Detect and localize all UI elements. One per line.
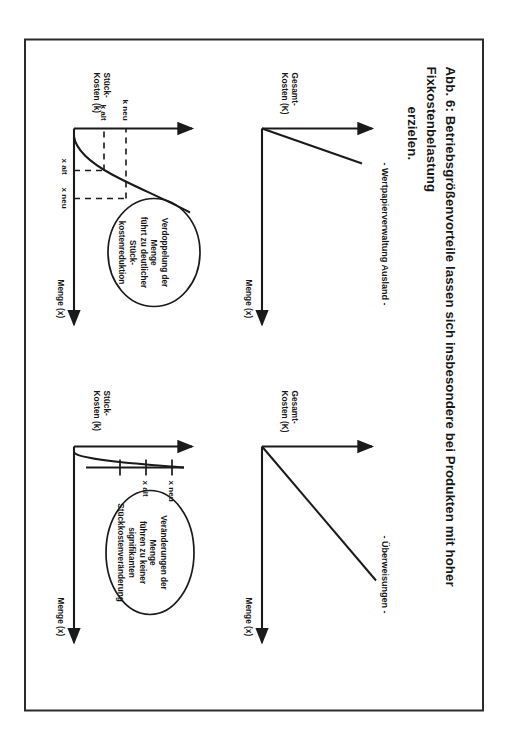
chart-bottom-right-tick-x-alt: x alt xyxy=(140,480,150,496)
chart-top-left-x-axis-label: Menge (x) xyxy=(244,279,254,318)
figure-title-line1: Betriebsgrößenvorteile lassen sich insbe… xyxy=(424,66,458,586)
chart-bottom-right: Stück- Kosten (k) Menge (x) x alt x neu … xyxy=(44,384,216,684)
unit-cost-curve xyxy=(74,452,184,467)
annotation-line-2: führt zu deutlicher Stück- xyxy=(126,206,147,298)
chart-top-left-plot xyxy=(232,66,404,366)
annotation-line-3: Stückkostenveränderung xyxy=(115,501,126,603)
charts-grid: - Wertpapierverwaltung Ausland - Gesamt-… xyxy=(44,66,404,686)
chart-top-left-y-axis-label-line1: Gesamt- xyxy=(290,72,300,105)
total-cost-line xyxy=(262,128,362,163)
chart-bottom-left-annotation: Verdoppelung der Menge führt zu deutlich… xyxy=(116,206,169,298)
annotation-line-3: kostenreduktion xyxy=(116,206,127,298)
chart-top-right-y-axis-label-line1: Gesamt- xyxy=(290,390,300,423)
annotation-line-2: führen zu keiner signifikanten xyxy=(125,501,146,603)
chart-bottom-right-y-axis-label-line1: Stück- xyxy=(102,390,112,415)
chart-top-right-caption: - Überweisungen - xyxy=(380,535,390,613)
chart-bottom-left-tick-x-neu: x neu xyxy=(59,187,69,208)
chart-bottom-left-tick-x-alt: x alt xyxy=(59,158,69,174)
chart-top-left-caption: - Wertpapierverwaltung Ausland - xyxy=(380,162,390,305)
annotation-line-1: Veränderungen der Menge xyxy=(147,501,168,603)
chart-bottom-right-y-axis-label-line2: Kosten (k) xyxy=(92,390,102,431)
total-cost-line xyxy=(262,446,376,580)
figure-rotated-canvas: Abb. 6: Betriebsgrößenvorteile lassen si… xyxy=(24,38,484,711)
figure-label: Abb. 6: xyxy=(443,66,458,111)
chart-top-right: - Überweisungen - Gesamt- Kosten (K) Men… xyxy=(232,384,404,684)
annotation-line-1: Verdoppelung der Menge xyxy=(148,206,169,298)
figure-frame: Abb. 6: Betriebsgrößenvorteile lassen si… xyxy=(24,38,484,711)
figure-title: Abb. 6: Betriebsgrößenvorteile lassen si… xyxy=(403,66,460,681)
chart-bottom-left-x-axis-label: Menge (x) xyxy=(56,279,66,318)
figure-title-line2: erzielen. xyxy=(403,66,422,681)
chart-bottom-right-x-axis-label: Menge (x) xyxy=(56,597,66,636)
chart-bottom-right-annotation: Veränderungen der Menge führen zu keiner… xyxy=(115,501,168,603)
chart-top-right-y-axis-label-line2: Kosten (K) xyxy=(280,390,290,432)
chart-top-right-plot xyxy=(232,384,404,684)
chart-bottom-left-tick-k-neu: k neu xyxy=(120,99,130,120)
chart-bottom-right-tick-x-neu: x neu xyxy=(166,480,176,501)
chart-bottom-left: Stück- Kosten (k) Menge (x) k alt k neu … xyxy=(44,66,216,366)
chart-top-right-x-axis-label: Menge (x) xyxy=(244,597,254,636)
chart-top-left: - Wertpapierverwaltung Ausland - Gesamt-… xyxy=(232,66,404,366)
chart-bottom-left-y-axis-label-line1: Stück- xyxy=(102,72,112,97)
chart-bottom-left-tick-k-alt: k alt xyxy=(98,104,108,120)
unit-cost-curve xyxy=(74,136,190,212)
chart-top-left-y-axis-label-line2: Kosten (K) xyxy=(280,72,290,114)
